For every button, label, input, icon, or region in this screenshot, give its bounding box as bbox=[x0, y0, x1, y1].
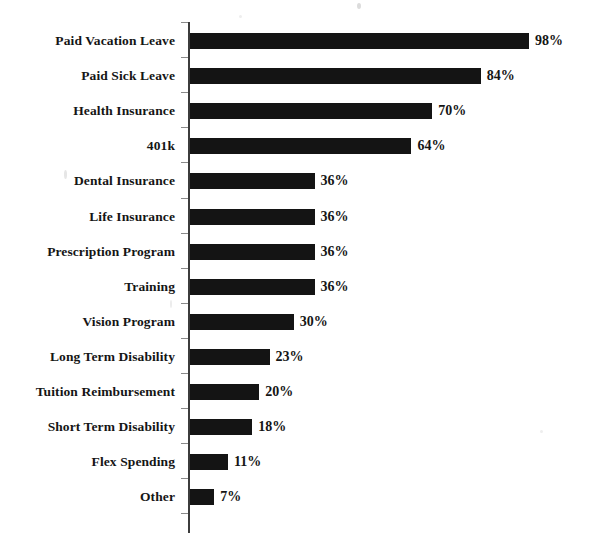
plot-area: Paid Vacation Leave98%Paid Sick Leave84%… bbox=[0, 0, 594, 549]
bar-value-label: 84% bbox=[487, 67, 515, 84]
bar-value-label: 18% bbox=[258, 418, 286, 435]
bar-value-label: 36% bbox=[321, 208, 349, 225]
bar-row: 401k64% bbox=[0, 131, 594, 161]
bar-fill bbox=[190, 314, 294, 330]
bar-value-label: 70% bbox=[438, 102, 466, 119]
axis-tick bbox=[181, 233, 188, 234]
axis-tick bbox=[181, 513, 188, 514]
axis-tick bbox=[181, 268, 188, 269]
bar-fill bbox=[190, 244, 315, 260]
bar-value-label: 23% bbox=[276, 348, 304, 365]
bar-row: Dental Insurance36% bbox=[0, 166, 594, 196]
bar-category-label: Tuition Reimbursement bbox=[0, 384, 175, 400]
bar-category-label: Long Term Disability bbox=[0, 349, 175, 365]
axis-tick bbox=[181, 22, 188, 23]
bar-row: Health Insurance70% bbox=[0, 96, 594, 126]
axis-tick bbox=[181, 373, 188, 374]
bar-track bbox=[190, 33, 529, 49]
bar-track bbox=[190, 349, 270, 365]
bar-row: Tuition Reimbursement20% bbox=[0, 377, 594, 407]
axis-tick bbox=[181, 127, 188, 128]
bar-row: Training36% bbox=[0, 272, 594, 302]
bar-category-label: Other bbox=[0, 489, 175, 505]
bar-fill bbox=[190, 209, 315, 225]
bar-value-label: 36% bbox=[321, 278, 349, 295]
bar-value-label: 11% bbox=[234, 453, 261, 470]
bar-fill bbox=[190, 68, 481, 84]
bar-row: Paid Sick Leave84% bbox=[0, 61, 594, 91]
bar-fill bbox=[190, 384, 259, 400]
bar-track bbox=[190, 384, 259, 400]
bar-row: Paid Vacation Leave98% bbox=[0, 26, 594, 56]
axis-tick bbox=[181, 408, 188, 409]
bar-row: Life Insurance36% bbox=[0, 202, 594, 232]
axis-tick bbox=[181, 443, 188, 444]
bar-value-label: 36% bbox=[321, 243, 349, 260]
bar-category-label: Dental Insurance bbox=[0, 173, 175, 189]
bar-category-label: Training bbox=[0, 279, 175, 295]
bar-track bbox=[190, 279, 315, 295]
bar-category-label: Paid Sick Leave bbox=[0, 68, 175, 84]
bar-row: Vision Program30% bbox=[0, 307, 594, 337]
bar-track bbox=[190, 68, 481, 84]
axis-tick bbox=[181, 162, 188, 163]
axis-tick bbox=[181, 92, 188, 93]
bar-value-label: 36% bbox=[321, 172, 349, 189]
bar-row: Other7% bbox=[0, 482, 594, 512]
bar-track bbox=[190, 209, 315, 225]
bar-track bbox=[190, 419, 252, 435]
bar-category-label: Health Insurance bbox=[0, 103, 175, 119]
bar-fill bbox=[190, 279, 315, 295]
bar-row: Short Term Disability18% bbox=[0, 412, 594, 442]
bar-value-label: 98% bbox=[535, 32, 563, 49]
bar-row: Long Term Disability23% bbox=[0, 342, 594, 372]
bar-fill bbox=[190, 33, 529, 49]
bar-chart: Paid Vacation Leave98%Paid Sick Leave84%… bbox=[0, 0, 594, 549]
bar-track bbox=[190, 454, 228, 470]
axis-tick bbox=[181, 338, 188, 339]
axis-tick bbox=[181, 57, 188, 58]
axis-tick bbox=[181, 303, 188, 304]
bar-value-label: 7% bbox=[220, 488, 241, 505]
bar-track bbox=[190, 138, 411, 154]
bar-track bbox=[190, 103, 432, 119]
bar-track bbox=[190, 489, 214, 505]
bar-category-label: 401k bbox=[0, 138, 175, 154]
bar-fill bbox=[190, 454, 228, 470]
bar-row: Flex Spending11% bbox=[0, 447, 594, 477]
bar-category-label: Flex Spending bbox=[0, 454, 175, 470]
bar-track bbox=[190, 314, 294, 330]
bar-row: Prescription Program36% bbox=[0, 237, 594, 267]
bar-value-label: 30% bbox=[300, 313, 328, 330]
bar-value-label: 20% bbox=[265, 383, 293, 400]
bar-track bbox=[190, 244, 315, 260]
bar-category-label: Vision Program bbox=[0, 314, 175, 330]
axis-tick bbox=[181, 198, 188, 199]
bar-value-label: 64% bbox=[417, 137, 445, 154]
bar-track bbox=[190, 173, 315, 189]
bar-category-label: Paid Vacation Leave bbox=[0, 33, 175, 49]
bar-category-label: Life Insurance bbox=[0, 209, 175, 225]
bar-category-label: Prescription Program bbox=[0, 244, 175, 260]
bar-fill bbox=[190, 419, 252, 435]
bar-category-label: Short Term Disability bbox=[0, 419, 175, 435]
bar-fill bbox=[190, 103, 432, 119]
bar-fill bbox=[190, 349, 270, 365]
bar-fill bbox=[190, 173, 315, 189]
bar-fill bbox=[190, 489, 214, 505]
axis-tick bbox=[181, 478, 188, 479]
bar-fill bbox=[190, 138, 411, 154]
